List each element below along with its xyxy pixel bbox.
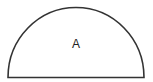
semicircle-diagram: A: [0, 0, 153, 82]
region-label: A: [72, 37, 80, 51]
